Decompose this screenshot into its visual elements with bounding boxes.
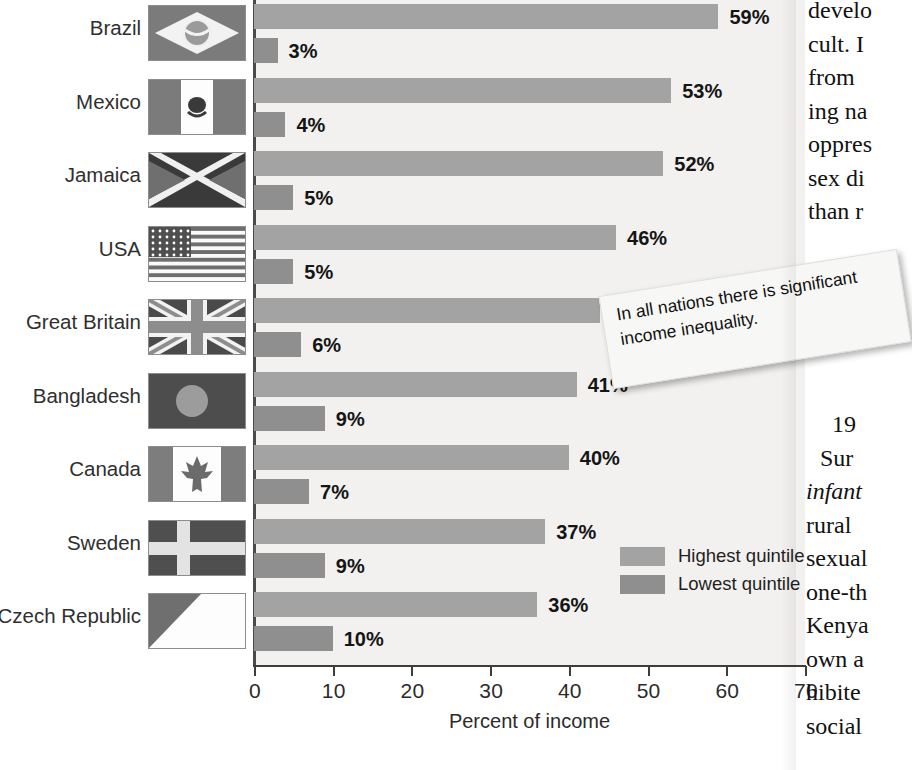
bar-value-lowest-quintile: 3% (289, 40, 318, 63)
bar-highest-quintile (254, 298, 600, 323)
flag-great-britain-icon (148, 299, 246, 355)
x-axis-tick-label: 50 (637, 679, 661, 703)
bar-lowest-quintile (254, 259, 293, 284)
book-text-line: 19 (806, 408, 869, 442)
bar-highest-quintile (254, 225, 616, 250)
book-text-column-bottom: 19Surinfantruralsexualone-thKenyaown ahi… (806, 408, 869, 743)
bar-value-highest-quintile: 53% (682, 80, 722, 103)
book-text-line: Sur (806, 442, 869, 476)
bar-highest-quintile (254, 151, 663, 176)
x-axis-tick-label: 30 (479, 679, 503, 703)
legend-label-highest-quintile: Highest quintile (678, 545, 805, 567)
book-text-line: social (806, 710, 869, 744)
x-axis-tick-label: 60 (715, 679, 739, 703)
x-axis-tick-label: 0 (249, 679, 261, 703)
bar-highest-quintile (254, 78, 671, 103)
x-axis-tick (333, 666, 335, 676)
book-text-line: rural (806, 509, 869, 543)
country-label: Bangladesh (33, 384, 141, 408)
x-axis-tick (411, 666, 413, 676)
bar-highest-quintile (254, 372, 577, 397)
bar-value-lowest-quintile: 5% (304, 187, 333, 210)
bar-highest-quintile (254, 4, 718, 29)
flag-mexico-icon (148, 79, 246, 135)
bar-lowest-quintile (254, 406, 325, 431)
bar-lowest-quintile (254, 38, 278, 63)
book-text-line: than r (808, 195, 872, 229)
bar-value-lowest-quintile: 4% (296, 114, 325, 137)
x-axis-tick-label: 20 (401, 679, 425, 703)
bar-lowest-quintile (254, 479, 309, 504)
flag-brazil-icon (148, 5, 246, 61)
book-text-line: sexual (806, 542, 869, 576)
x-axis-tick (569, 666, 571, 676)
country-label: USA (99, 237, 141, 261)
chart-legend: Highest quintile Lowest quintile (620, 545, 805, 601)
flag-usa-icon (148, 226, 246, 282)
book-text-line: Kenya (806, 609, 869, 643)
legend-item-lowest-quintile: Lowest quintile (620, 573, 805, 595)
bar-value-highest-quintile: 52% (674, 153, 714, 176)
bar-value-lowest-quintile: 10% (344, 628, 384, 651)
book-text-line: own a (806, 643, 869, 677)
bar-lowest-quintile (254, 553, 325, 578)
bar-value-highest-quintile: 46% (627, 227, 667, 250)
legend-swatch-highest-quintile (620, 547, 665, 566)
bar-lowest-quintile (254, 112, 285, 137)
bar-lowest-quintile (254, 185, 293, 210)
country-label: Canada (69, 457, 141, 481)
bar-value-lowest-quintile: 7% (320, 481, 349, 504)
bar-value-highest-quintile: 37% (556, 521, 596, 544)
country-label: Brazil (90, 16, 141, 40)
country-label: Czech Republic (0, 604, 141, 628)
book-text-line: sex di (808, 162, 872, 196)
book-text-line: one-th (806, 576, 869, 610)
bar-lowest-quintile (254, 626, 333, 651)
legend-swatch-lowest-quintile (620, 575, 665, 594)
legend-label-lowest-quintile: Lowest quintile (678, 573, 800, 595)
bar-value-highest-quintile: 59% (729, 6, 769, 29)
country-label: Great Britain (26, 310, 141, 334)
x-axis-line (253, 665, 806, 667)
flag-jamaica-icon (148, 152, 246, 208)
bar-value-lowest-quintile: 6% (312, 334, 341, 357)
x-axis-tick (254, 666, 256, 676)
book-text-line: oppres (808, 128, 872, 162)
book-text-column-top: develocult. Ifroming naoppressex dithan … (808, 0, 872, 229)
bar-value-highest-quintile: 36% (548, 594, 588, 617)
bar-highest-quintile (254, 519, 545, 544)
x-axis-tick (648, 666, 650, 676)
country-label: Sweden (67, 531, 141, 555)
flag-bangladesh-icon (148, 373, 246, 429)
book-text-line: cult. I (808, 28, 872, 62)
x-axis-tick-label: 40 (558, 679, 582, 703)
flag-czech-republic-icon (148, 593, 246, 649)
bar-value-lowest-quintile: 9% (336, 408, 365, 431)
bar-lowest-quintile (254, 332, 301, 357)
country-label: Mexico (76, 90, 141, 114)
bar-highest-quintile (254, 592, 537, 617)
bar-value-lowest-quintile: 5% (304, 261, 333, 284)
x-axis-title: Percent of income (254, 710, 805, 733)
bar-value-highest-quintile: 40% (580, 447, 620, 470)
book-text-line: hibite (806, 676, 869, 710)
x-axis-tick (726, 666, 728, 676)
country-label: Jamaica (65, 163, 141, 187)
book-text-line: ing na (808, 95, 872, 129)
bar-highest-quintile (254, 445, 569, 470)
x-axis-tick-label: 10 (322, 679, 346, 703)
book-text-line: develo (808, 0, 872, 28)
book-text-line: from (808, 61, 872, 95)
x-axis-tick (490, 666, 492, 676)
legend-item-highest-quintile: Highest quintile (620, 545, 805, 567)
flag-sweden-icon (148, 520, 246, 576)
book-text-line: infant (806, 475, 869, 509)
bar-value-lowest-quintile: 9% (336, 555, 365, 578)
flag-canada-icon (148, 446, 246, 502)
